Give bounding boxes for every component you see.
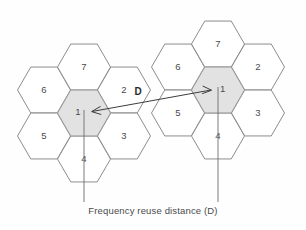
hex-label: 5: [41, 130, 46, 141]
cellular-hex-grid: 6 5 7 4 2 3: [0, 0, 306, 230]
frequency-reuse-diagram: 6 5 7 4 2 3: [0, 0, 306, 230]
hex-label: 6: [175, 61, 180, 72]
hex-label: 5: [175, 107, 180, 118]
hex-label: 3: [255, 107, 260, 118]
hex-label: 3: [121, 130, 126, 141]
figure-caption: Frequency reuse distance (D): [0, 205, 306, 216]
left-cochannel-cell-label: 1: [75, 106, 80, 117]
hex-label: 2: [121, 84, 126, 95]
hex-label: 7: [81, 61, 86, 72]
hex-label: 7: [215, 38, 220, 49]
right-cochannel-cell-label: 1: [220, 83, 225, 94]
hex-label: 6: [41, 84, 46, 95]
hex-label: 2: [255, 61, 260, 72]
distance-label-d: D: [134, 86, 141, 97]
